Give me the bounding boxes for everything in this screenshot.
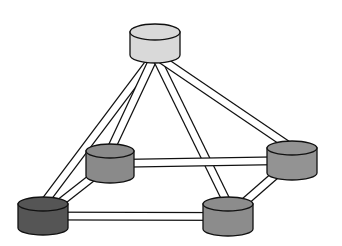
node-top-cylinder-icon [130,24,180,63]
links-layer [43,55,292,217]
node-back-left-cylinder-icon [86,144,134,183]
node-front-left-cylinder-icon [18,197,68,235]
network-diagram [0,0,342,246]
link-front-left-front-right [43,216,228,217]
node-front-right-cylinder-icon [203,197,253,236]
link-back-left-back-right [110,161,292,164]
node-back-right-cylinder-icon [267,141,317,180]
